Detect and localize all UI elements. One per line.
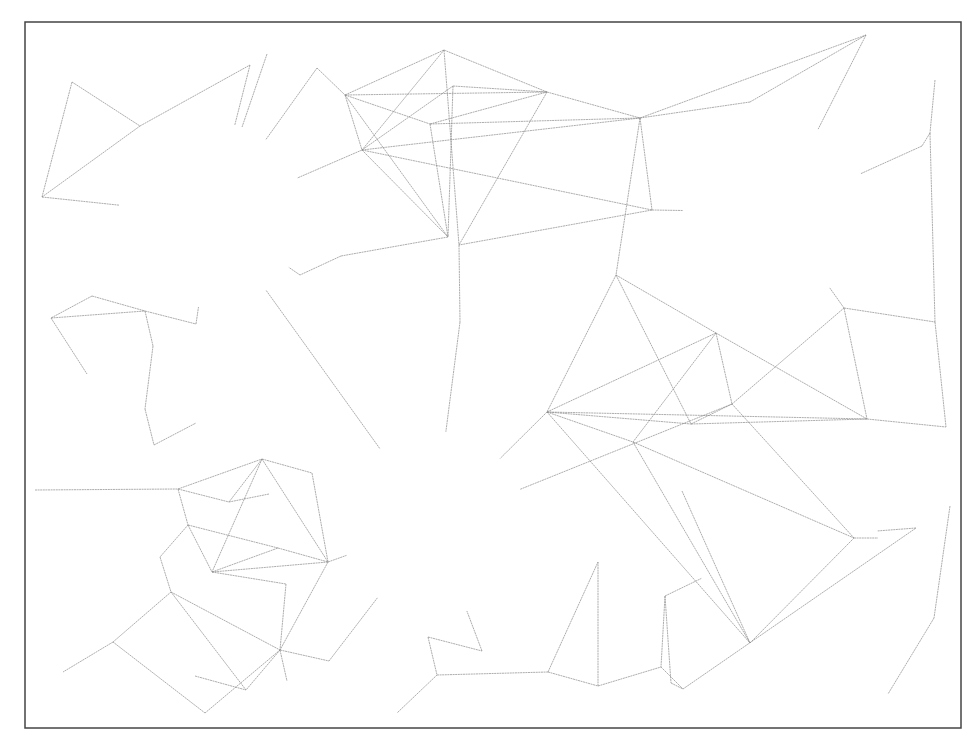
network-canvas [0, 0, 979, 747]
network-diagram [0, 0, 979, 747]
diagram-frame [25, 22, 961, 728]
